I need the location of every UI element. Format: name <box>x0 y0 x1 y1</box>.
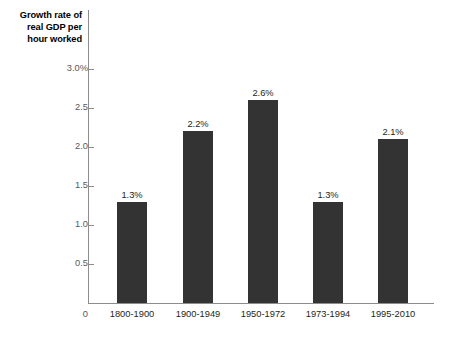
bar <box>117 202 147 303</box>
y-axis-title-line-3: hour worked <box>6 33 82 45</box>
bar-value-label: 2.6% <box>236 88 290 98</box>
y-axis-tick-label: 1.5 <box>22 180 88 190</box>
bar-group: 2.2% <box>183 131 213 303</box>
x-axis-category-label: 1995-2010 <box>350 309 436 319</box>
x-axis-line <box>88 303 434 304</box>
plot-area: 1.3%2.2%2.6%1.3%2.1% <box>88 10 434 303</box>
bar <box>313 202 343 303</box>
y-axis-tick-label: 0.5 <box>22 258 88 268</box>
bar <box>248 100 278 303</box>
bar <box>183 131 213 303</box>
bar-value-label: 2.1% <box>366 127 420 137</box>
bar-group: 2.6% <box>248 100 278 303</box>
bar-group: 1.3% <box>313 202 343 303</box>
bar-value-label: 1.3% <box>105 190 159 200</box>
bar-group: 2.1% <box>378 139 408 303</box>
y-axis-tick-label: 2.0 <box>22 141 88 151</box>
y-axis-tick-label: 3.0% <box>22 63 88 73</box>
bar-value-label: 1.3% <box>301 190 355 200</box>
bar-group: 1.3% <box>117 202 147 303</box>
y-axis-title-line-2: real GDP per <box>6 21 82 33</box>
chart-canvas: Growth rate of real GDP per hour worked … <box>0 0 452 337</box>
y-axis-tick-label: 2.5 <box>22 102 88 112</box>
y-axis-tick-label: 1.0 <box>22 219 88 229</box>
bar-value-label: 2.2% <box>171 119 225 129</box>
y-axis-title: Growth rate of real GDP per hour worked <box>6 9 82 46</box>
y-axis-title-line-1: Growth rate of <box>6 9 82 21</box>
y-axis-tick-label-zero: 0 <box>22 309 88 319</box>
bar <box>378 139 408 303</box>
